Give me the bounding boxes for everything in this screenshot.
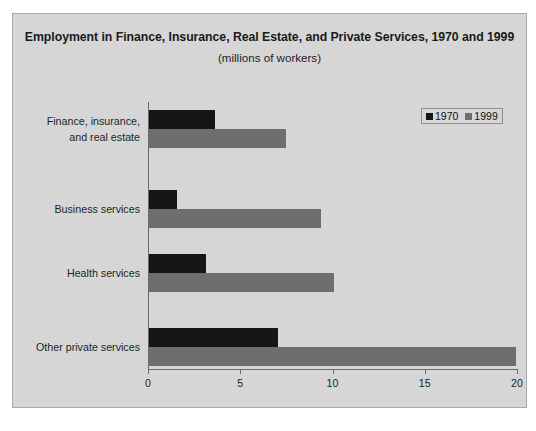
x-axis-tick-label: 10 <box>318 377 348 389</box>
category-label-line: Finance, insurance, <box>20 113 140 129</box>
bar-1970-3 <box>149 328 278 347</box>
x-axis-tick-mark <box>425 369 426 374</box>
bar-1999-2 <box>149 273 334 292</box>
bar-1970-2 <box>149 254 206 273</box>
bar-1970-0 <box>149 110 215 129</box>
category-label-line: and real estate <box>20 129 140 145</box>
category-label: Health services <box>20 265 140 281</box>
x-axis-tick-mark <box>517 369 518 374</box>
x-axis-tick-label: 5 <box>225 377 255 389</box>
chart-title: Employment in Finance, Insurance, Real E… <box>13 30 526 44</box>
x-axis-tick-label: 20 <box>502 377 532 389</box>
bar-1999-3 <box>149 347 516 366</box>
bar-1999-0 <box>149 129 286 148</box>
x-axis-tick-mark <box>240 369 241 374</box>
category-label-line: Other private services <box>20 339 140 355</box>
category-label-line: Business services <box>20 201 140 217</box>
chart-subtitle: (millions of workers) <box>13 51 526 64</box>
x-axis-tick-mark <box>148 369 149 374</box>
category-label: Finance, insurance,and real estate <box>20 113 140 145</box>
bar-1999-1 <box>149 209 321 228</box>
category-label-line: Health services <box>20 265 140 281</box>
x-axis-tick-mark <box>333 369 334 374</box>
bar-1970-1 <box>149 190 177 209</box>
x-axis-tick-label: 0 <box>133 377 163 389</box>
x-axis-tick-label: 15 <box>410 377 440 389</box>
chart-figure-frame: Employment in Finance, Insurance, Real E… <box>12 13 527 408</box>
category-label: Other private services <box>20 339 140 355</box>
category-label: Business services <box>20 201 140 217</box>
